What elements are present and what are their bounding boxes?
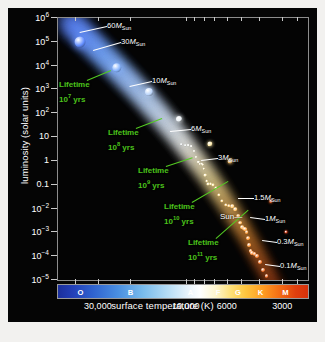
- x-axis-tick: [297, 17, 298, 21]
- plot-area: 60MSun30MSun10MSun6MSun3MSun1.5MSun1MSun…: [57, 17, 309, 281]
- mass-label-m6: 6MSun: [191, 124, 211, 133]
- lifetime-label-lt8: Lifetime108 yrs: [108, 128, 139, 153]
- x-axis-tick: [98, 279, 99, 284]
- y-axis-tick-label: 0.1: [8, 179, 49, 189]
- y-axis-tick-label: 103: [8, 82, 49, 94]
- sun-label: Sun—: [220, 212, 242, 221]
- x-axis-tick: [259, 17, 260, 21]
- mass-label-m10: 10MSun: [152, 76, 176, 85]
- y-axis-tick: [51, 255, 57, 256]
- x-axis-tick: [227, 17, 228, 21]
- y-axis-tick: [51, 112, 57, 113]
- x-axis-tick: [75, 279, 76, 284]
- lifetime-leader-line: [136, 118, 162, 129]
- y-axis-tick-label: 105: [8, 35, 49, 47]
- x-axis-tick: [227, 279, 228, 284]
- x-axis-tick: [98, 17, 99, 21]
- x-axis-tick: [75, 17, 76, 21]
- mass-leader-line: [201, 158, 218, 161]
- x-axis-tick: [204, 17, 205, 21]
- y-axis-tick-label: 106: [8, 11, 49, 23]
- mass-leader-line: [80, 26, 107, 33]
- hr-diagram-figure: luminosity (solar units) surface tempera…: [0, 0, 325, 342]
- x-axis-tick: [259, 279, 260, 284]
- mass-leader-line: [262, 240, 277, 243]
- y-axis-tick: [51, 41, 57, 42]
- y-axis-tick: [51, 65, 57, 66]
- x-axis-tick: [186, 279, 187, 284]
- spectral-class-f: F: [216, 287, 221, 296]
- x-axis-tick-label: 6000: [217, 301, 237, 311]
- y-axis-tick-label: 1: [8, 155, 49, 165]
- x-axis-tick: [130, 279, 131, 284]
- y-axis-tick-label: 10−2: [8, 202, 49, 214]
- mass-label-m01: 0.1MSun: [280, 261, 306, 270]
- mass-leader-line: [170, 129, 191, 132]
- spectral-class-m: M: [282, 287, 288, 296]
- mass-label-m30: 30MSun: [121, 37, 145, 46]
- y-axis-tick-label: 10−4: [8, 249, 49, 261]
- y-axis-tick-label: 104: [8, 59, 49, 71]
- y-axis-tick: [51, 208, 57, 209]
- x-axis-tick: [204, 279, 205, 284]
- mass-leader-line: [130, 81, 152, 87]
- y-axis-tick-label: 10−5: [8, 273, 49, 285]
- x-axis-tick: [214, 279, 215, 284]
- mass-leader-line: [265, 264, 280, 267]
- x-axis-tick: [130, 17, 131, 21]
- mass-label-m3: 3MSun: [218, 153, 238, 162]
- annotation-layer: 60MSun30MSun10MSun6MSun3MSun1.5MSun1MSun…: [58, 18, 308, 280]
- figure-panel: luminosity (solar units) surface tempera…: [8, 8, 317, 322]
- spectral-class-b: B: [128, 287, 133, 296]
- mass-leader-line: [93, 42, 121, 51]
- x-axis-tick-label: 30,000: [84, 301, 112, 311]
- lifetime-label-lt9: Lifetime109 yrs: [138, 166, 169, 191]
- y-axis-tick: [51, 160, 57, 161]
- lifetime-leader-line: [87, 70, 112, 81]
- x-axis-tick: [194, 279, 195, 284]
- x-axis-tick: [282, 17, 283, 21]
- x-axis-tick: [297, 279, 298, 284]
- spectral-class-a: A: [188, 287, 193, 296]
- x-axis-tick: [282, 279, 283, 284]
- lifetime-label-lt11: Lifetime1011 yrs: [188, 238, 219, 263]
- lifetime-leader-line: [166, 157, 193, 167]
- y-axis-tick: [51, 231, 57, 232]
- mass-label-m60: 60MSun: [107, 21, 131, 30]
- x-axis-tick-label: 3000: [272, 301, 292, 311]
- mass-label-m03: 0.3MSun: [277, 237, 303, 246]
- y-axis-tick: [51, 184, 57, 185]
- spectral-class-bar: OBAFGKM: [57, 284, 309, 299]
- x-axis-label: surface temperature (K): [8, 300, 317, 311]
- y-axis-tick: [51, 279, 57, 280]
- spectral-class-g: G: [235, 287, 241, 296]
- mass-leader-line: [238, 198, 254, 199]
- lifetime-leader-line: [192, 181, 229, 203]
- y-axis-tick: [51, 88, 57, 89]
- x-axis-tick-label: 10,000: [172, 301, 200, 311]
- x-axis-tick: [186, 17, 187, 21]
- lifetime-label-lt10: Lifetime1010 yrs: [164, 202, 195, 227]
- x-axis-tick: [194, 17, 195, 21]
- y-axis-tick-label: 10: [8, 131, 49, 141]
- y-axis-tick-label: 102: [8, 106, 49, 118]
- y-axis-tick: [51, 17, 57, 18]
- mass-leader-line: [250, 217, 265, 220]
- spectral-class-k: K: [258, 287, 263, 296]
- x-axis-tick: [241, 17, 242, 21]
- mass-label-m15: 1.5MSun: [254, 193, 280, 202]
- x-axis-tick: [241, 279, 242, 284]
- mass-label-m1: 1MSun: [265, 214, 285, 223]
- x-axis-tick: [214, 17, 215, 21]
- lifetime-label-lt7: Lifetime107 yrs: [59, 80, 90, 105]
- spectral-class-o: O: [78, 287, 84, 296]
- y-axis-tick: [51, 136, 57, 137]
- y-axis-tick-label: 10−3: [8, 225, 49, 237]
